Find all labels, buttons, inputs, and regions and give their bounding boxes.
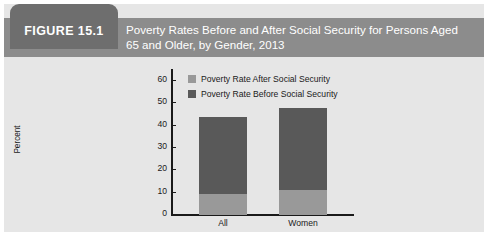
figure-number-label: FIGURE 15.1 <box>10 4 118 49</box>
y-axis-tick-label: 20 <box>147 164 167 173</box>
y-axis-tick-label: 30 <box>147 142 167 151</box>
y-axis-line <box>171 69 173 215</box>
bar-stack[interactable] <box>199 117 247 215</box>
legend-item-after: Poverty Rate After Social Security <box>188 73 338 85</box>
figure-number-tab: FIGURE 15.1 <box>10 4 118 49</box>
y-axis-tick <box>172 192 176 193</box>
bar-segment-before[interactable] <box>279 108 327 191</box>
y-axis-tick-label: 10 <box>147 187 167 196</box>
bar-segment-after[interactable] <box>199 194 247 215</box>
legend-label-before: Poverty Rate Before Social Security <box>201 89 338 99</box>
figure-title: Poverty Rates Before and After Social Se… <box>126 22 472 52</box>
x-axis-tick-label: All <box>193 218 253 228</box>
figure-card: FIGURE 15.1 Poverty Rates Before and Aft… <box>4 4 484 232</box>
bar-segment-before[interactable] <box>199 117 247 194</box>
chart-plot-area: Poverty Rate After Social Security Pover… <box>4 57 484 232</box>
legend-item-before: Poverty Rate Before Social Security <box>188 88 338 100</box>
y-axis-title: Percent <box>13 110 22 170</box>
x-axis-tick-label: Women <box>273 218 333 228</box>
y-axis-tick-label: 0 <box>147 209 167 218</box>
legend-label-after: Poverty Rate After Social Security <box>201 74 330 84</box>
y-axis-tick <box>172 125 176 126</box>
chart-legend: Poverty Rate After Social Security Pover… <box>188 73 338 103</box>
bar-stack[interactable] <box>279 108 327 215</box>
legend-swatch-after <box>188 75 196 83</box>
y-axis-tick <box>172 169 176 170</box>
y-axis-tick <box>172 214 176 215</box>
y-axis-tick <box>172 102 176 103</box>
y-axis-tick <box>172 80 176 81</box>
y-axis-tick-label: 50 <box>147 97 167 106</box>
bar-segment-after[interactable] <box>279 190 327 215</box>
legend-swatch-before <box>188 90 196 98</box>
y-axis-tick <box>172 147 176 148</box>
y-axis-tick-label: 60 <box>147 75 167 84</box>
y-axis-tick-label: 40 <box>147 120 167 129</box>
